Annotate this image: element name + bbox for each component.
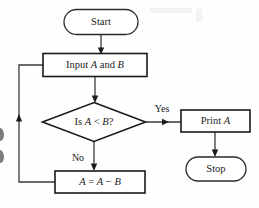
node-decision[interactable]: Is A < B? [43,103,146,142]
flowchart-page: Start Input A and B Is A < B? Print A St [0,0,259,208]
node-decision-label: Is A < B? [75,116,114,127]
node-input[interactable]: Input A and B [43,54,147,77]
node-assign[interactable]: A = A − B [55,171,145,193]
node-stop-label: Stop [206,163,225,174]
connector-decision-to-print [146,119,181,125]
edge-label-no: No [72,152,84,163]
node-assign-label: A = A − B [78,176,121,187]
flowchart-canvas: Start Input A and B Is A < B? Print A St [0,0,259,208]
node-input-label: Input A and B [66,59,125,70]
connector-input-to-decision [92,77,98,103]
edge-label-yes: Yes [155,103,170,114]
node-print[interactable]: Print A [181,110,250,132]
connector-print-to-stop [212,132,218,157]
node-print-label: Print A [201,115,231,126]
connector-decision-to-assign [91,142,97,171]
node-stop[interactable]: Stop [186,157,246,181]
connector-start-to-input [98,35,104,55]
node-start[interactable]: Start [64,10,138,35]
node-start-label: Start [91,16,111,27]
